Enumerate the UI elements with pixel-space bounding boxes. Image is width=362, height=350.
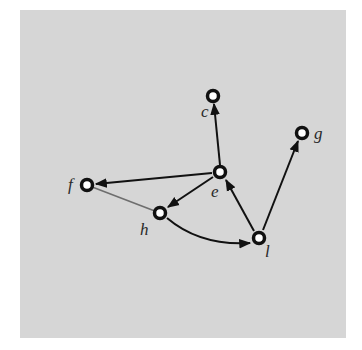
node-label-h: h xyxy=(140,220,149,239)
node-h[interactable]: h xyxy=(140,208,166,240)
edge-e-c xyxy=(214,104,220,165)
node-l[interactable]: l xyxy=(254,233,271,262)
node-e[interactable]: e xyxy=(211,167,226,202)
edge-e-f xyxy=(96,173,212,184)
edge-e-h xyxy=(168,177,213,207)
node-label-e: e xyxy=(211,182,219,201)
node-label-l: l xyxy=(265,242,270,261)
node-label-c: c xyxy=(201,102,209,121)
node-f[interactable]: f xyxy=(68,175,93,194)
node-g[interactable]: g xyxy=(297,124,323,143)
node-label-g: g xyxy=(314,124,323,143)
edge-h-l xyxy=(167,218,250,243)
node-label-f: f xyxy=(68,175,75,194)
graph-canvas: c g e f h l xyxy=(0,0,362,350)
edge-f-h xyxy=(87,185,160,213)
edge-l-e xyxy=(226,180,254,231)
edge-l-g xyxy=(263,141,298,230)
